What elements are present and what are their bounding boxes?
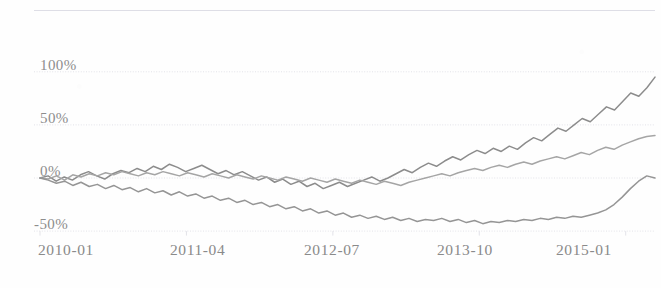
x-tick-label-2: 2012-07 (304, 241, 360, 259)
y-tick-label-0: 0% (40, 163, 61, 180)
x-tick-label-3: 2013-10 (437, 241, 493, 259)
x-tick-label-4: 2015-01 (556, 241, 612, 259)
y-tick-label--50: -50% (34, 216, 68, 233)
x-tick-label-1: 2011-04 (170, 241, 225, 259)
x-tick-label-0: 2010-01 (38, 241, 94, 259)
x-axis-ticks (40, 231, 626, 236)
y-tick-label-100: 100% (40, 57, 77, 74)
returns-line-chart: 100%50%0%-50% 2010-012011-042012-072013-… (0, 0, 661, 288)
series-lines (40, 77, 655, 224)
gridlines (34, 11, 655, 232)
line-series-1 (40, 77, 655, 189)
y-tick-label-50: 50% (40, 110, 69, 127)
line-series-3 (40, 176, 655, 224)
